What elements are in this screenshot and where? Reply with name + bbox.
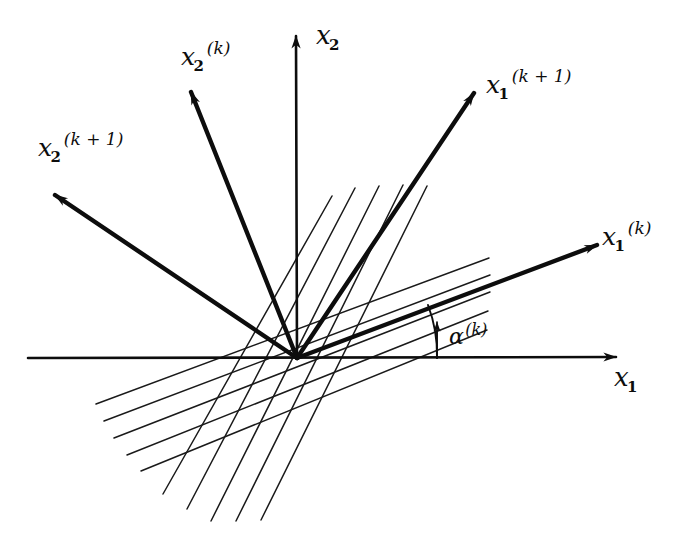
vector-label-x2-k1: x2(k + 1): [38, 135, 122, 160]
vector-label-x1-k1: x1(k + 1): [486, 72, 570, 97]
angle-label-alpha-k: α(k): [449, 326, 486, 348]
vector-x1-k: [297, 245, 597, 358]
x2-axis-line: [296, 36, 297, 358]
x1-axis-label: x1: [614, 364, 639, 390]
vector-x2-k1: [55, 195, 297, 358]
vector-x2-k: [191, 92, 297, 358]
diagram-svg: [0, 0, 696, 549]
x2-axis-label: x2: [316, 22, 341, 48]
vector-x1-k1: [297, 93, 474, 358]
figure-canvas: x2 x1 x2(k) x2(k + 1) x1(k + 1) x1(k) α(…: [0, 0, 696, 549]
x1-axis-line: [28, 357, 616, 358]
vector-label-x2-k: x2(k): [181, 44, 229, 69]
contour-lines-parallel-to-x1k: [96, 258, 490, 471]
vector-label-x1-k: x1(k): [602, 224, 650, 249]
